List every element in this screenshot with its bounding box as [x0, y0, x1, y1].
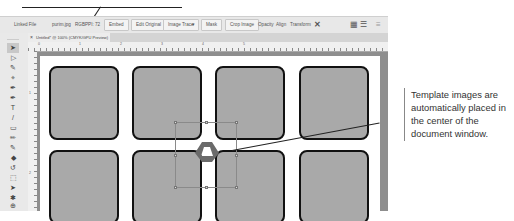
control-bar: Linked File purim.jpg RGB PPI: 72 Embed … — [0, 16, 388, 34]
file-name: purim.jpg — [52, 19, 71, 30]
callout-bracket — [404, 88, 405, 141]
curvature-tool-icon[interactable]: ✒ — [7, 93, 19, 103]
tools-panel: ➤ ▷ ✎ ⌖ ✒ ✒ T / ▭ ✏ ✎ ◆ ↺ ⬚ ➤ ✱ ⊕ — [0, 33, 29, 211]
list-icon[interactable]: ☰ — [360, 20, 367, 30]
zoom-tool-icon[interactable]: ⊕ — [7, 201, 19, 211]
template-square[interactable] — [299, 150, 369, 221]
panel-collapse-handle[interactable] — [7, 35, 19, 40]
grid-icon[interactable]: ▦ — [350, 20, 358, 30]
embed-button[interactable]: Embed — [104, 19, 129, 31]
linked-file-label[interactable]: Linked File — [14, 19, 36, 30]
rotate-tool-icon[interactable]: ↺ — [7, 163, 19, 173]
ruler-tick: 1 — [29, 91, 31, 95]
close-tab-icon[interactable]: × — [30, 33, 33, 42]
ruler-tick: 5 — [243, 42, 245, 46]
resize-handle[interactable] — [205, 186, 208, 189]
document-tab[interactable]: × Untitled* @ 100% (CMYK/GPU Preview) — [28, 33, 110, 42]
free-transform-tool-icon[interactable]: ⬚ — [7, 173, 19, 183]
rectangle-tool-icon[interactable]: ▭ — [7, 123, 19, 133]
resize-handle[interactable] — [174, 154, 177, 157]
crop-image-button[interactable]: Crop Image — [225, 19, 259, 31]
ruler-tick: 0 — [38, 42, 40, 46]
ruler-tick: 4 — [202, 42, 204, 46]
direct-selection-tool-icon[interactable]: ▷ — [7, 53, 19, 63]
align-link[interactable]: Align — [276, 19, 286, 30]
placed-image-shape-icon — [194, 141, 220, 163]
panel-menu-icon[interactable]: ≡ — [376, 20, 381, 30]
selection-tool-icon[interactable]: ➤ — [7, 43, 19, 53]
resize-handle[interactable] — [174, 186, 177, 189]
lasso-tool-icon[interactable]: ⌖ — [7, 73, 19, 83]
shaper-tool-icon[interactable]: ✎ — [7, 143, 19, 153]
top-callout-line — [22, 7, 182, 8]
resize-handle[interactable] — [174, 121, 177, 124]
opacity-link[interactable]: Opacity — [258, 19, 274, 30]
document-tab-bar: × Untitled* @ 100% (CMYK/GPU Preview) — [28, 33, 388, 42]
placed-template-image[interactable] — [175, 122, 237, 188]
callout-text: Template images are automatically placed… — [411, 88, 514, 140]
shape-builder-tool-icon[interactable]: ➤ — [7, 183, 19, 193]
magic-wand-tool-icon[interactable]: ✎ — [7, 63, 19, 73]
ruler-tick: 2 — [29, 171, 31, 175]
resize-handle[interactable] — [205, 121, 208, 124]
transform-link[interactable]: Transform — [290, 19, 311, 30]
document-tab-title: Untitled* @ 100% (CMYK/GPU Preview) — [36, 35, 108, 40]
ppi-value: PPI: 72 — [85, 19, 100, 30]
puppet-warp-icon[interactable]: ✕ — [314, 20, 321, 30]
ruler-tick: 3 — [161, 42, 163, 46]
edit-original-button[interactable]: Edit Original — [131, 19, 166, 31]
line-tool-icon[interactable]: / — [7, 113, 19, 123]
horizontal-ruler[interactable]: 0 1 2 3 4 5 — [28, 42, 388, 52]
resize-handle[interactable] — [235, 154, 238, 157]
ruler-tick: 1 — [79, 42, 81, 46]
resize-handle[interactable] — [235, 121, 238, 124]
pen-tool-icon[interactable]: ✒ — [7, 83, 19, 93]
mask-button[interactable]: Mask — [201, 19, 222, 31]
paintbrush-tool-icon[interactable]: ✏ — [7, 133, 19, 143]
template-square[interactable] — [49, 66, 119, 140]
eraser-tool-icon[interactable]: ◆ — [7, 153, 19, 163]
color-mode: RGB — [75, 19, 85, 30]
ruler-tick: 2 — [120, 42, 122, 46]
image-trace-dropdown-icon[interactable]: ▾ — [192, 19, 195, 30]
template-square[interactable] — [299, 66, 369, 140]
type-tool-icon[interactable]: T — [7, 103, 19, 113]
template-square[interactable] — [49, 150, 119, 221]
resize-handle[interactable] — [235, 186, 238, 189]
